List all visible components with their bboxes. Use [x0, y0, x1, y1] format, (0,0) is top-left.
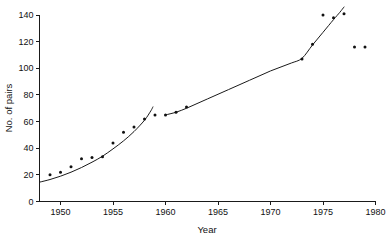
data-point: [122, 131, 125, 134]
data-point: [311, 43, 314, 46]
plot-background: [0, 0, 387, 239]
data-point: [70, 165, 73, 168]
y-tick-label: 120: [18, 37, 33, 47]
data-point: [59, 171, 62, 174]
data-point: [364, 45, 367, 48]
y-tick-label: 100: [18, 63, 33, 73]
y-tick-label: 140: [18, 10, 33, 20]
y-tick-label: 40: [23, 143, 33, 153]
chart-container: 020406080100120140 195019551960196519701…: [0, 0, 387, 239]
y-tick-label: 60: [23, 117, 33, 127]
data-point: [133, 125, 136, 128]
data-point: [301, 57, 304, 60]
x-tick-label: 1965: [208, 207, 228, 217]
y-tick-label: 0: [28, 197, 33, 207]
data-point: [101, 155, 104, 158]
x-axis-title: Year: [197, 224, 216, 235]
x-tick-label: 1980: [365, 207, 385, 217]
data-point: [154, 113, 157, 116]
data-point: [112, 141, 115, 144]
y-tick-label: 20: [23, 170, 33, 180]
x-tick-label: 1960: [155, 207, 175, 217]
y-tick-label: 80: [23, 90, 33, 100]
data-point: [143, 117, 146, 120]
scatter-plot: 020406080100120140 195019551960196519701…: [0, 0, 387, 239]
y-axis-title: No. of pairs: [3, 83, 14, 132]
data-point: [164, 113, 167, 116]
data-point: [353, 45, 356, 48]
x-tick-label: 1955: [103, 207, 123, 217]
data-point: [185, 105, 188, 108]
data-point: [343, 12, 346, 15]
data-point: [91, 156, 94, 159]
data-point: [80, 157, 83, 160]
x-tick-label: 1970: [260, 207, 280, 217]
data-point: [49, 173, 52, 176]
data-point: [322, 14, 325, 17]
data-point: [332, 16, 335, 19]
x-tick-label: 1975: [313, 207, 333, 217]
x-tick-label: 1950: [50, 207, 70, 217]
data-point: [175, 111, 178, 114]
